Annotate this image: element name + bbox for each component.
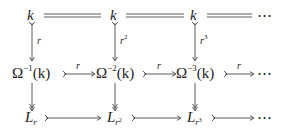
node-L-r3: Lr3 bbox=[187, 110, 202, 125]
node-L-r2: Lr2 bbox=[107, 110, 122, 125]
label-omega2-omega3: r bbox=[157, 61, 161, 71]
vertical-arrow-r2 bbox=[112, 22, 118, 61]
node-k-2: k bbox=[110, 8, 117, 23]
node-L-r: Lr bbox=[25, 110, 37, 125]
label-omega3-dots: r bbox=[237, 61, 241, 71]
arrow-L3-dots bbox=[212, 115, 254, 121]
label-r3: r3 bbox=[200, 36, 207, 46]
vertical-epi-3 bbox=[193, 83, 198, 111]
label-r2: r2 bbox=[120, 36, 127, 46]
node-omega-1: Ω−1(k) bbox=[12, 66, 50, 81]
label-r: r bbox=[37, 36, 41, 46]
vertical-epi-2 bbox=[113, 83, 118, 111]
node-k-3: k bbox=[190, 8, 197, 23]
node-omega-2: Ω−2(k) bbox=[96, 66, 134, 81]
node-k-1: k bbox=[27, 8, 34, 23]
arrow-L2-L3 bbox=[132, 115, 181, 121]
middle-row-ellipsis: ⋯ bbox=[257, 66, 272, 81]
arrow-L1-L2 bbox=[45, 115, 101, 121]
arrow-omega1-omega2 bbox=[63, 71, 95, 77]
label-omega1-omega2: r bbox=[76, 61, 80, 71]
bottom-row-ellipsis: ⋯ bbox=[257, 110, 272, 125]
equality-k1-k2 bbox=[44, 14, 101, 17]
arrow-omega3-dots bbox=[224, 71, 254, 77]
arrow-omega2-omega3 bbox=[143, 71, 176, 77]
vertical-epi-1 bbox=[30, 83, 35, 111]
equality-k3-dots bbox=[207, 14, 252, 17]
equality-k2-k3 bbox=[126, 14, 184, 17]
node-omega-3: Ω−3(k) bbox=[176, 66, 214, 81]
top-row-ellipsis: ⋯ bbox=[257, 8, 272, 23]
vertical-arrow-r bbox=[29, 22, 35, 61]
vertical-arrow-r3 bbox=[192, 22, 198, 61]
